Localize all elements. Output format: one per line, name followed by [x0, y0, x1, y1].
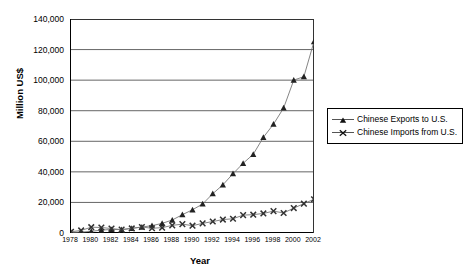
data-point-marker: [169, 217, 175, 223]
data-point-marker: [189, 207, 195, 213]
data-point-marker: [301, 201, 307, 207]
y-axis-tick-labels: 020,00040,00060,00080,000100,000120,0001…: [12, 0, 64, 274]
legend: Chinese Exports to U.S. Chinese Imports …: [327, 108, 463, 144]
y-axis-tick-label: 40,000: [12, 168, 64, 177]
series-line: [71, 199, 314, 232]
x-marker-icon: [332, 128, 354, 138]
series-line: [71, 42, 314, 233]
data-point-marker: [301, 74, 307, 80]
y-axis-tick-label: 80,000: [12, 107, 64, 116]
data-point-marker: [311, 39, 314, 45]
data-point-marker: [250, 151, 256, 157]
data-point-marker: [270, 121, 276, 127]
x-axis-title: Year: [90, 255, 310, 266]
y-axis-tick-label: 140,000: [12, 15, 64, 24]
y-axis-tick-label: 20,000: [12, 198, 64, 207]
data-point-marker: [179, 212, 185, 218]
data-point-marker: [281, 105, 287, 111]
y-axis-tick-label: 100,000: [12, 76, 64, 85]
legend-label-imports: Chinese Imports from U.S.: [357, 126, 457, 139]
data-point-marker: [291, 205, 297, 211]
legend-item-exports: Chinese Exports to U.S.: [332, 113, 457, 126]
legend-item-imports: Chinese Imports from U.S.: [332, 126, 457, 139]
legend-label-exports: Chinese Exports to U.S.: [357, 113, 448, 126]
plot-area: [70, 19, 313, 233]
x-axis-tick-label: 2002: [300, 236, 326, 243]
series-canvas: [71, 19, 314, 233]
chart-container: Million US$ 020,00040,00060,00080,000100…: [0, 0, 476, 274]
y-axis-tick-label: 120,000: [12, 46, 64, 55]
y-axis-tick-label: 60,000: [12, 137, 64, 146]
triangle-marker-icon: [332, 115, 354, 125]
